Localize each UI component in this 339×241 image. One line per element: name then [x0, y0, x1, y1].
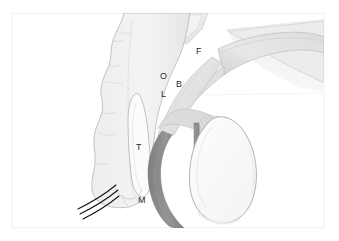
label-t: T: [136, 143, 142, 152]
label-m: M: [138, 196, 146, 205]
figure-root: F O B L T M: [0, 0, 339, 241]
scan-artifact: [202, 93, 324, 95]
label-f: F: [196, 47, 202, 56]
label-l: L: [161, 90, 166, 99]
label-b: B: [176, 80, 182, 89]
dark-curved-band-M: [148, 131, 184, 228]
label-o: O: [160, 72, 167, 81]
anatomical-diagram: [12, 13, 324, 228]
